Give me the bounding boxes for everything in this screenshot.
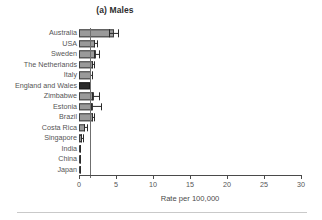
error-bar-cap-high (80, 145, 81, 152)
error-bar-cap-high (92, 72, 93, 79)
chart-figure: (a) Males AustraliaUSASwedenThe Netherla… (0, 0, 322, 220)
category-label: Estonia (53, 103, 77, 110)
error-bar (109, 30, 119, 37)
error-bar-cap-low (81, 135, 82, 142)
x-tick-label: 20 (223, 180, 231, 189)
error-bar-cap-high (99, 93, 100, 100)
x-tick-label: 5 (114, 180, 118, 189)
chart-row: USA (79, 39, 301, 50)
error-bar (92, 114, 94, 121)
error-bar (92, 61, 96, 68)
category-label: Brazil (59, 114, 77, 121)
category-label: India (61, 145, 77, 152)
reference-line (90, 28, 91, 178)
x-tick-label: 10 (149, 180, 157, 189)
error-bar-cap-high (94, 61, 95, 68)
chart-row: Italy (79, 70, 301, 81)
bar (79, 114, 93, 121)
error-bar-cap-high (101, 103, 102, 110)
error-bar (80, 166, 81, 173)
category-label: Zimbabwe (44, 93, 77, 100)
x-tick (153, 175, 154, 179)
x-tick-label: 0 (77, 180, 81, 189)
category-label: Australia (49, 30, 77, 37)
error-bar (81, 135, 84, 142)
chart-row: Sweden (79, 49, 301, 60)
chart-row: Brazil (79, 112, 301, 123)
chart-row: England and Wales (79, 81, 301, 92)
error-bar-cap-high (94, 114, 95, 121)
x-tick-label: 30 (297, 180, 305, 189)
x-tick (116, 175, 117, 179)
chart-row: Japan (79, 165, 301, 176)
chart-row: Costa Rica (79, 123, 301, 134)
error-bar (94, 40, 98, 47)
chart-row: India (79, 144, 301, 155)
category-label: Japan (57, 166, 77, 173)
chart-row: Estonia (79, 102, 301, 113)
category-label: Singapore (44, 135, 77, 142)
category-label: The Netherlands (24, 61, 77, 68)
error-bar-cap-low (94, 51, 95, 58)
bottom-divider (17, 212, 307, 213)
category-label: China (58, 156, 77, 163)
error-bar-cap-high (99, 51, 100, 58)
category-label: USA (62, 40, 77, 47)
error-bar-cap-low (92, 61, 93, 68)
error-bar (84, 124, 88, 131)
error-bar (92, 93, 100, 100)
chart-row: Singapore (79, 133, 301, 144)
chart-row: Zimbabwe (79, 91, 301, 102)
error-bar-cap-low (109, 30, 110, 37)
x-tick-label: 15 (186, 180, 194, 189)
error-bar (91, 103, 102, 110)
error-bar (94, 51, 100, 58)
error-bar (80, 145, 81, 152)
error-bar-cap-high (80, 166, 81, 173)
bar (79, 72, 91, 79)
category-label: Sweden (51, 51, 77, 58)
x-tick (264, 175, 265, 179)
error-bar-cap-high (118, 30, 119, 37)
error-bar-cap-low (84, 124, 85, 131)
x-tick (190, 175, 191, 179)
error-bar-cap-high (87, 124, 88, 131)
x-tick (79, 175, 80, 179)
error-bar-cap-high (83, 135, 84, 142)
chart-row: China (79, 154, 301, 165)
error-bar-cap-low (91, 103, 92, 110)
plot-area: AustraliaUSASwedenThe NetherlandsItalyEn… (79, 28, 301, 175)
error-bar (80, 156, 81, 163)
x-axis-title: Rate per 100,000 (79, 194, 301, 203)
error-bar-cap-low (94, 40, 95, 47)
x-tick (301, 175, 302, 179)
error-bar-cap-high (97, 40, 98, 47)
error-bar-cap-low (92, 93, 93, 100)
chart-row: The Netherlands (79, 60, 301, 71)
chart-title: (a) Males (0, 5, 230, 15)
error-bar-cap-high (80, 156, 81, 163)
category-label: England and Wales (15, 82, 77, 89)
bar (79, 82, 90, 89)
x-tick-label: 25 (260, 180, 268, 189)
category-label: Costa Rica (42, 124, 77, 131)
chart-row: Australia (79, 28, 301, 39)
category-label: Italy (64, 72, 77, 79)
x-tick (227, 175, 228, 179)
